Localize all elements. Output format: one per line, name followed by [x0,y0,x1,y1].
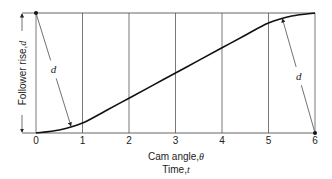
dimension-label-d: d [296,70,302,82]
y-axis-label: Follower rise,d [17,40,28,105]
dimension-line [36,13,51,60]
x-tick-label: 2 [126,135,132,146]
x-tick-label: 5 [266,135,272,146]
x-tick-label: 4 [219,135,225,146]
cam-displacement-diagram: dd 0123456Cam angle,θTime,tFollower rise… [0,0,332,179]
x-tick-label: 0 [33,135,39,146]
dimension-label-d: d [51,63,57,75]
x-axis-label-time: Time,t [162,164,190,175]
x-axis-label: Cam angle,θ [148,151,204,162]
dimension-arrow [56,78,71,125]
x-tick-label: 6 [312,135,318,146]
x-tick-label: 3 [173,135,179,146]
x-tick-label: 1 [80,135,86,146]
dimension-line [301,85,315,133]
dimension-arrow [282,19,296,67]
